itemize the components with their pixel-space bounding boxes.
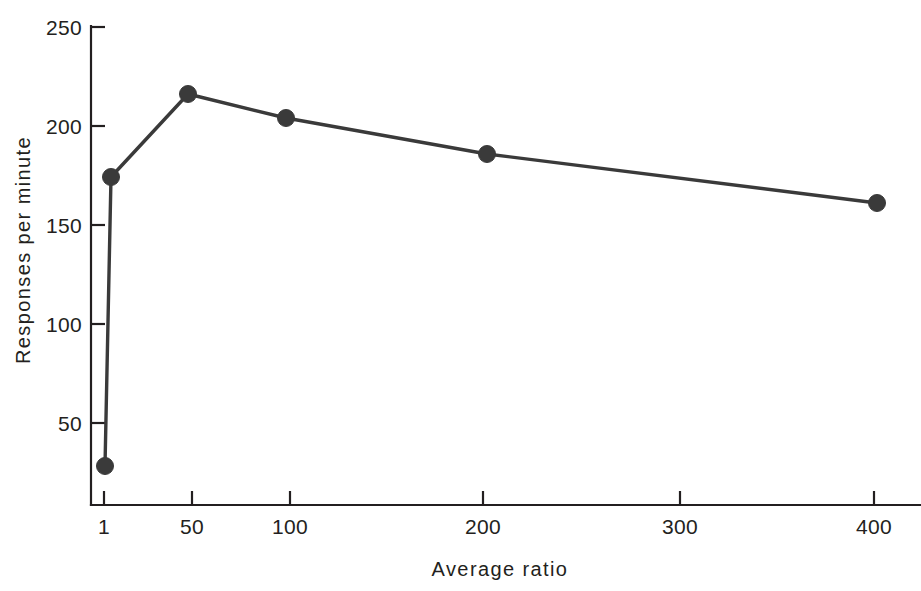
y-tick-label-200: 200 (46, 115, 82, 138)
y-axis-title: Responses per minute (12, 136, 34, 364)
line-chart-svg: 250 200 150 100 50 1 50 100 200 300 400 … (0, 0, 921, 591)
x-tick-label-400: 400 (856, 515, 892, 538)
x-tick-label-200: 200 (465, 515, 501, 538)
data-point (103, 169, 120, 186)
x-tick-label-100: 100 (272, 515, 308, 538)
data-point (479, 146, 496, 163)
x-tick-label-300: 300 (662, 515, 698, 538)
data-point (97, 458, 114, 475)
y-tick-label-150: 150 (46, 214, 82, 237)
y-tick-label-50: 50 (58, 412, 82, 435)
x-axis-title: Average ratio (432, 558, 569, 580)
y-tick-label-250: 250 (46, 16, 82, 39)
data-point (180, 86, 197, 103)
data-point (869, 195, 886, 212)
data-point (278, 110, 295, 127)
x-tick-label-50: 50 (180, 515, 204, 538)
data-point-group (97, 86, 886, 475)
x-tick-label-1: 1 (98, 515, 110, 538)
chart-figure: 250 200 150 100 50 1 50 100 200 300 400 … (0, 0, 921, 591)
y-tick-label-100: 100 (46, 313, 82, 336)
